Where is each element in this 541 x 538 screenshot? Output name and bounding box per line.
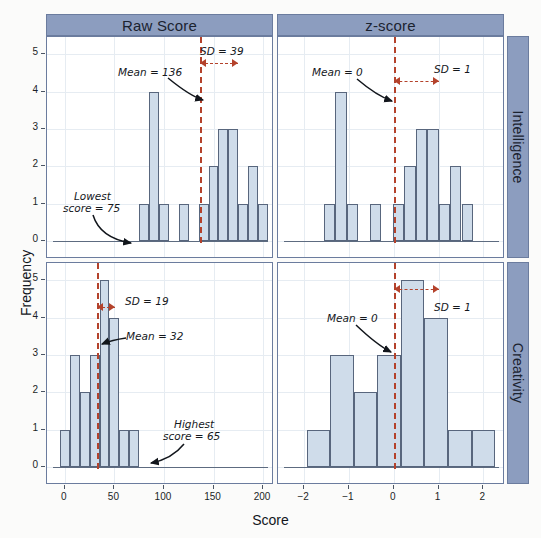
figure-canvas: Raw Score z-score Intelligence Creativit… [0, 0, 541, 538]
annotation-arrows [0, 0, 541, 538]
